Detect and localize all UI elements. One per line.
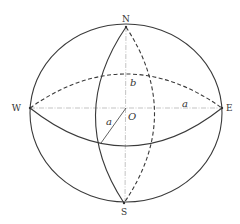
label-a-horizontal: a bbox=[182, 98, 188, 109]
label-a-radius: a bbox=[106, 116, 112, 127]
vertical-axis bbox=[125, 27, 126, 203]
label-center: O bbox=[128, 111, 136, 122]
label-b: b bbox=[130, 77, 136, 88]
label-east: E bbox=[226, 103, 233, 113]
label-west: W bbox=[12, 103, 22, 113]
equator-front-arc bbox=[30, 108, 222, 146]
east-point bbox=[221, 107, 223, 109]
outer-ellipse bbox=[30, 24, 222, 202]
label-north: N bbox=[122, 14, 130, 24]
north-point bbox=[125, 26, 127, 28]
west-point bbox=[29, 107, 31, 109]
ellipsoid-diagram: N S W E O b a a bbox=[0, 0, 240, 224]
radius-line bbox=[101, 108, 126, 143]
label-south: S bbox=[121, 207, 127, 217]
south-point bbox=[123, 202, 125, 204]
